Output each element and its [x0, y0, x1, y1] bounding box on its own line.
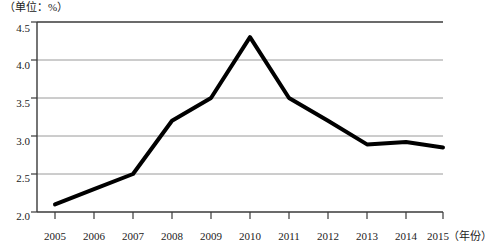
data-series-line [55, 37, 443, 204]
gridlines [37, 22, 443, 174]
y-axis [31, 22, 37, 212]
x-axis [37, 212, 443, 219]
